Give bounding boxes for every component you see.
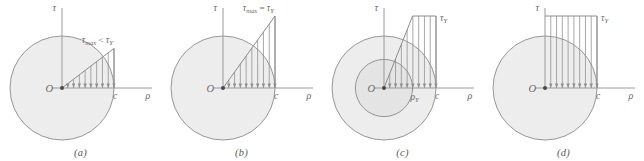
- origin-label: O: [206, 83, 214, 94]
- panel-d-diagram: τρOcτY: [483, 0, 644, 161]
- rho-axis-label: ρ: [467, 90, 473, 101]
- panel-b-diagram: τρOcτmax = τY: [161, 0, 322, 161]
- origin-dot: [221, 86, 225, 90]
- rho-axis-label: ρ: [628, 90, 634, 101]
- origin-dot: [60, 86, 64, 90]
- panel-c-caption: (c): [322, 147, 483, 158]
- origin-dot: [382, 86, 386, 90]
- panel-c-diagram: τρOcρYτY: [322, 0, 483, 161]
- stress-magnitude-label: τmax < τY: [82, 35, 114, 46]
- stress-magnitude-label: τY: [601, 13, 609, 24]
- outer-radius-label: c: [435, 91, 440, 101]
- outer-radius-label: c: [274, 91, 279, 101]
- panel-a-diagram: τρOcτmax < τY: [0, 0, 161, 161]
- rho-axis-label: ρ: [306, 90, 312, 101]
- tau-axis-label: τ: [535, 2, 539, 13]
- tau-axis-label: τ: [52, 2, 56, 13]
- stress-magnitude-label: τmax = τY: [243, 3, 275, 14]
- shear-stress-figure: τρOcτmax < τY(a)τρOcτmax = τY(b)τρOcρYτY…: [0, 0, 644, 161]
- panel-b: τρOcτmax = τY(b): [161, 0, 322, 161]
- panel-a: τρOcτmax < τY(a): [0, 0, 161, 161]
- panel-d: τρOcτY(d): [483, 0, 644, 161]
- rho-axis-label: ρ: [145, 90, 151, 101]
- origin-label: O: [528, 83, 536, 94]
- panel-d-caption: (d): [483, 147, 644, 158]
- outer-radius-label: c: [113, 91, 118, 101]
- tau-axis-label: τ: [213, 2, 217, 13]
- tau-axis-label: τ: [374, 2, 378, 13]
- panel-a-caption: (a): [0, 147, 161, 158]
- origin-dot: [543, 86, 547, 90]
- outer-radius-label: c: [596, 91, 601, 101]
- stress-magnitude-label: τY: [440, 13, 448, 24]
- panel-b-caption: (b): [161, 147, 322, 158]
- origin-label: O: [367, 83, 375, 94]
- origin-label: O: [45, 83, 53, 94]
- panel-c: τρOcρYτY(c): [322, 0, 483, 161]
- stress-arrows: [549, 16, 599, 88]
